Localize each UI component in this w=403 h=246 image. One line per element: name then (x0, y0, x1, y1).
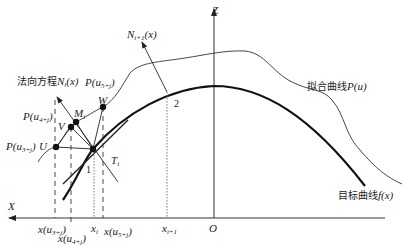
segment-tu (56, 147, 93, 149)
marker-1: 1 (86, 164, 91, 176)
label-m: Mi (74, 107, 85, 119)
normal-line-i1 (142, 42, 167, 92)
label-u: U (39, 140, 47, 152)
fitted-curve-label: 拟合曲线P(u) (307, 80, 367, 93)
label-w: W (98, 94, 107, 106)
point-t (90, 146, 96, 152)
segment-tv (71, 127, 93, 149)
point-u (53, 144, 59, 150)
point-m (73, 119, 79, 125)
origin-label: O (209, 222, 217, 234)
label-v: V (58, 120, 65, 132)
point-v (68, 124, 74, 130)
tick-xi1: xi+1 (162, 222, 177, 234)
tick-xu5: x(u5+j) (104, 225, 132, 237)
z-axis-label: Z (212, 4, 218, 16)
tick-xu4: x(u4+j) (58, 232, 86, 244)
target-curve-label: 目标曲线f(x) (338, 189, 393, 202)
normal-label-i: 法向方程Ni(x) (17, 75, 79, 88)
tick-xi: xi (91, 222, 98, 234)
label-t: Ti (111, 154, 119, 166)
x-axis-label: X (8, 200, 15, 212)
marker-2: 2 (174, 98, 179, 110)
point-label-p5: P(u5+j) (85, 76, 115, 88)
point-label-p4: P(u4+j) (23, 110, 53, 122)
normal-label-i1: Ni+1(x) (127, 28, 157, 40)
segment-tm (76, 122, 93, 149)
point-label-p3: P(u3+j) (6, 140, 36, 152)
